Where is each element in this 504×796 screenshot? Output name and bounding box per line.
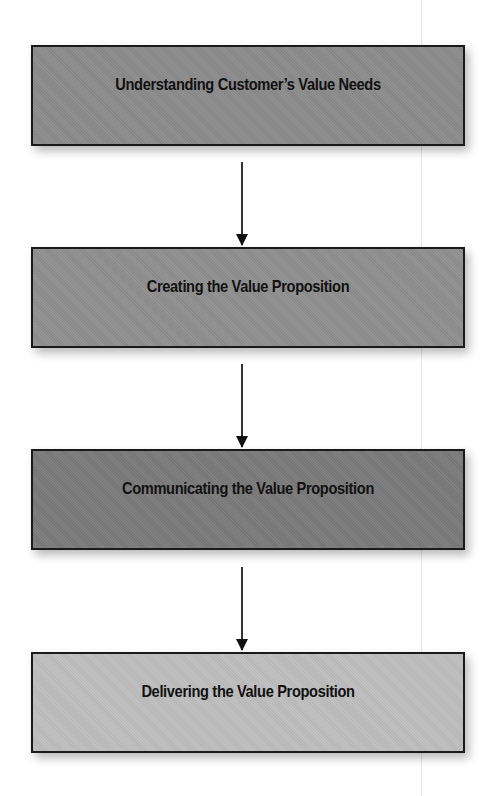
step-label: Creating the Value Proposition: [63, 277, 433, 297]
step-creating-value-proposition: Creating the Value Proposition: [31, 247, 465, 348]
down-arrow-icon: [236, 436, 248, 448]
step-understanding-customer-value-needs: Understanding Customer’s Value Needs: [31, 45, 465, 146]
connector-arrow-3: [241, 567, 243, 650]
connector-arrow-1: [241, 162, 243, 245]
down-arrow-icon: [236, 639, 248, 651]
step-delivering-value-proposition: Delivering the Value Proposition: [31, 652, 465, 753]
down-arrow-icon: [236, 234, 248, 246]
step-label: Understanding Customer’s Value Needs: [63, 75, 433, 95]
connector-arrow-2: [241, 364, 243, 447]
step-label: Delivering the Value Proposition: [63, 682, 433, 702]
step-communicating-value-proposition: Communicating the Value Proposition: [31, 449, 465, 550]
faint-scan-noise: [20, 773, 340, 787]
step-label: Communicating the Value Proposition: [63, 479, 433, 499]
